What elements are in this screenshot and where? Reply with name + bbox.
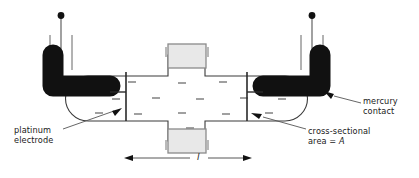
mercury-leader-line [334, 96, 361, 103]
left-mercury-body [53, 55, 110, 86]
bottom-block-body [168, 129, 206, 153]
length-symbol-label: l [197, 152, 200, 162]
mercury-leader-arrowhead [324, 91, 334, 99]
top-filling-tube-block [166, 44, 208, 68]
right-mercury-body [263, 55, 320, 86]
length-dimension-arrow [124, 155, 252, 161]
cross-sectional-line1: cross-sectional [308, 126, 370, 136]
left-terminal-dot [58, 12, 65, 19]
mercury-contact-label: mercury contact [363, 96, 398, 117]
figure-canvas: platinum electrode mercury contact cross… [0, 0, 419, 178]
length-arrowhead-left [124, 155, 133, 161]
conductivity-cell-diagram [0, 0, 419, 178]
right-mercury-contact [263, 55, 320, 86]
cross-section-leader-line [263, 117, 306, 129]
right-terminal-dot [309, 12, 316, 19]
cross-sectional-area-label: cross-sectionalarea = A [308, 126, 370, 147]
cross-sectional-line2-prefix: area = [308, 136, 339, 146]
bottom-filling-tube-block [166, 129, 208, 153]
left-mercury-contact [53, 55, 110, 86]
cross-sectional-area-symbol: A [339, 136, 345, 146]
cross-section-leader-arrowhead [251, 113, 262, 119]
platinum-leader-line [63, 111, 114, 129]
platinum-electrode-leader [63, 108, 122, 129]
mercury-contact-leader [324, 91, 361, 103]
top-block-body [168, 44, 206, 68]
length-symbol: l [197, 152, 200, 162]
length-arrowhead-right [243, 155, 252, 161]
platinum-electrode-label: platinum electrode [14, 125, 53, 146]
platinum-leader-arrowhead [112, 108, 122, 116]
